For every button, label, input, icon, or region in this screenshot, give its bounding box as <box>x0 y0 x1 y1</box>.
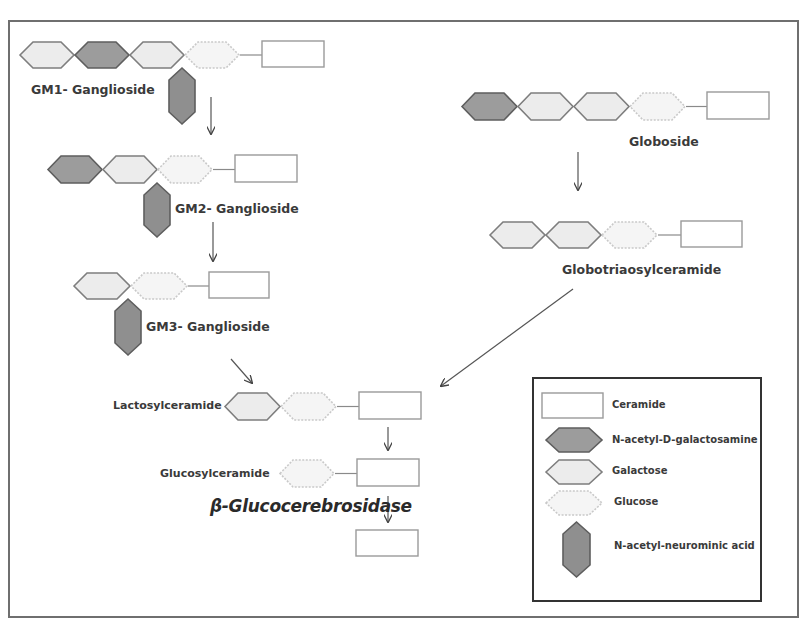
legend-label-n-acetyl-d-galactosamine: N-acetyl-D-galactosamine <box>612 435 758 445</box>
galactose-icon <box>518 93 573 120</box>
label-beta-glucocerebrosidase-enzyme: β-Glucocerebrosidase <box>210 498 412 515</box>
ceramide-icon <box>357 459 419 486</box>
n-acetyl-d-galactosamine-icon <box>75 42 129 68</box>
ceramide-icon <box>262 41 324 67</box>
n-acetyl-neurominic-acid-icon <box>115 299 141 355</box>
galactose-icon <box>546 222 601 248</box>
ceramide-icon <box>681 221 742 247</box>
ceramide-icon <box>209 272 269 298</box>
galactose-icon <box>20 42 74 68</box>
legend-label-n-acetyl-neurominic-acid: N-acetyl-neurominic acid <box>614 541 755 551</box>
arrow-globotriaosylceramide-to-lactosylceramide <box>441 289 573 386</box>
glucose-icon <box>602 222 657 248</box>
glucose-icon <box>131 273 187 299</box>
label-glucosylceramide: Glucosylceramide <box>160 468 270 479</box>
glucose-icon <box>281 393 336 420</box>
n-acetyl-neurominic-acid-icon <box>144 183 170 237</box>
legend-label-galactose: Galactose <box>612 466 667 476</box>
galactose-icon <box>490 222 545 248</box>
glucose-icon <box>185 42 239 68</box>
label-globoside: Globoside <box>629 136 699 149</box>
label-gm3-ganglioside: GM3- Ganglioside <box>146 321 270 334</box>
ceramide-icon <box>707 92 769 119</box>
legend-label-ceramide: Ceramide <box>612 400 666 410</box>
galactose-icon <box>574 93 629 120</box>
galactose-icon <box>103 156 157 183</box>
n-acetyl-d-galactosamine-icon <box>462 93 517 120</box>
ceramide-icon <box>235 155 297 182</box>
label-lactosylceramide: Lactosylceramide <box>113 400 222 411</box>
legend-label-glucose: Glucose <box>614 497 658 507</box>
label-globotriaosylceramide: Globotriaosylceramide <box>562 264 721 277</box>
glucose-icon <box>158 156 212 183</box>
galactose-icon <box>225 393 280 420</box>
label-gm2-ganglioside: GM2- Ganglioside <box>175 203 299 216</box>
arrow-gm3-to-lactosylceramide <box>231 359 252 383</box>
ceramide-icon <box>359 392 421 419</box>
galactose-icon <box>130 42 184 68</box>
label-gm1-ganglioside: GM1- Ganglioside <box>31 84 155 97</box>
n-acetyl-d-galactosamine-icon <box>48 156 102 183</box>
glucose-icon <box>280 460 334 487</box>
galactose-icon <box>74 273 130 299</box>
n-acetyl-neurominic-acid-icon <box>169 68 195 124</box>
ceramide-icon <box>356 530 418 556</box>
legend <box>532 377 762 602</box>
glucose-icon <box>630 93 685 120</box>
